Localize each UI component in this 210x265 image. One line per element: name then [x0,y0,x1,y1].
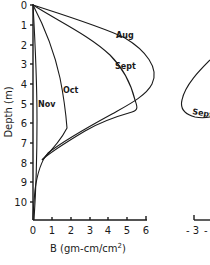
x-tick-2: 2 [68,225,74,236]
y-tick-4: 4 [21,79,27,90]
nov-label: Nov [38,100,56,109]
sept-curve [33,5,137,160]
y-tick-2: 2 [21,40,27,51]
aug-label: Aug [116,31,134,40]
y-axis-title: Depth (m) [3,86,14,137]
y-tick-6: 6 [21,118,27,129]
panel2-tick-label-m3: - 3 [186,225,199,236]
y-tick-0: 0 [21,0,27,11]
x-tick-6: 6 [143,225,149,236]
y-tick-3: 3 [21,59,27,70]
x-tick-1: 1 [49,225,55,236]
x-tick-0: 0 [30,225,36,236]
x-tick-labels: 0 1 2 3 4 5 6 [30,225,149,236]
y-tick-8: 8 [21,158,27,169]
x-tick-5: 5 [124,225,130,236]
aug-curve [33,5,154,220]
y-tick-1: 1 [21,20,27,31]
oct-curve [33,5,67,160]
y-tick-10: 10 [14,197,27,208]
y-tick-labels: 0 1 2 3 4 5 6 7 8 9 10 [14,0,27,208]
x-tick-4: 4 [105,225,111,236]
sept-label: Sept [115,62,136,71]
panel2-tick-label-next: - [204,225,208,236]
y-tick-7: 7 [21,138,27,149]
x-tick-3: 3 [87,225,93,236]
x-axis-title: B (gm-cm/cm2) [50,242,126,254]
depth-profile-chart: 0 1 2 3 4 5 6 7 8 9 10 0 1 2 3 4 5 6 Dep… [0,0,210,265]
y-tick-9: 9 [21,177,27,188]
y-tick-5: 5 [21,99,27,110]
oct-label: Oct [63,86,79,95]
